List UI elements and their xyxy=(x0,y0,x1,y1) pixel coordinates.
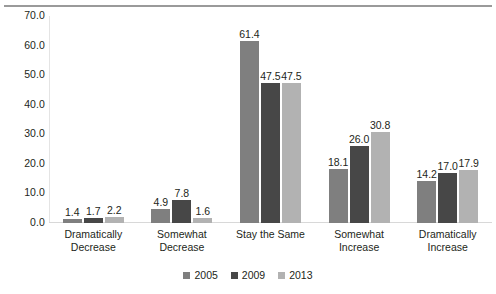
y-axis-tick: 40.0 xyxy=(3,99,45,110)
bar-value-label: 18.1 xyxy=(328,157,348,168)
y-axis-tick-labels: 0.010.020.030.040.050.060.070.0 xyxy=(0,0,45,294)
x-axis-category-label-line: Dramatically xyxy=(403,228,492,241)
bar-item[interactable]: 1.4 xyxy=(63,219,82,223)
bar-rect[interactable] xyxy=(459,170,478,223)
bar-value-label: 1.4 xyxy=(65,207,80,218)
x-axis-category-label: Stay the Same xyxy=(226,228,315,241)
bar-item[interactable]: 7.8 xyxy=(172,200,191,223)
bar-item[interactable]: 1.7 xyxy=(84,218,103,223)
bar-value-label: 14.2 xyxy=(416,169,436,180)
bar-value-label: 17.9 xyxy=(458,158,478,169)
bar-group: 18.126.030.8 xyxy=(315,16,404,223)
x-axis-category-label-line: Somewhat xyxy=(138,228,227,241)
bar-rect[interactable] xyxy=(438,173,457,223)
legend-swatch-icon xyxy=(278,272,285,279)
x-axis-category-label: SomewhatIncrease xyxy=(315,228,404,253)
bar-group-bars: 1.41.72.2 xyxy=(49,16,138,223)
legend-item[interactable]: 2009 xyxy=(231,270,265,281)
bar-value-label: 17.0 xyxy=(437,161,457,172)
bar-value-label: 47.5 xyxy=(260,71,280,82)
bar-group-bars: 4.97.81.6 xyxy=(138,16,227,223)
x-axis-category-label-line: Stay the Same xyxy=(226,228,315,241)
top-divider-rule xyxy=(4,5,492,7)
bar-item[interactable]: 26.0 xyxy=(350,146,369,223)
legend-label: 2009 xyxy=(242,270,265,281)
x-axis-category-label-line: Increase xyxy=(403,241,492,254)
bar-value-label: 1.6 xyxy=(196,206,211,217)
bar-item[interactable]: 61.4 xyxy=(240,41,259,223)
bar-value-label: 61.4 xyxy=(239,29,259,40)
bar-group: 4.97.81.6 xyxy=(138,16,227,223)
legend-label: 2013 xyxy=(289,270,312,281)
bar-rect[interactable] xyxy=(282,83,301,223)
legend-swatch-icon xyxy=(183,272,190,279)
bar-item[interactable]: 1.6 xyxy=(193,218,212,223)
bar-rect[interactable] xyxy=(350,146,369,223)
y-axis-tick: 30.0 xyxy=(3,128,45,139)
bar-item[interactable]: 2.2 xyxy=(105,217,124,224)
bar-rect[interactable] xyxy=(151,209,170,223)
bar-rect[interactable] xyxy=(84,218,103,223)
bar-rect[interactable] xyxy=(63,219,82,223)
x-axis-category-label: DramaticallyIncrease xyxy=(403,228,492,253)
bar-value-label: 4.9 xyxy=(154,197,169,208)
bar-rect[interactable] xyxy=(240,41,259,223)
bar-group: 61.447.547.5 xyxy=(226,16,315,223)
legend-swatch-icon xyxy=(231,272,238,279)
y-axis-tick: 10.0 xyxy=(3,187,45,198)
x-axis-category-label: SomewhatDecrease xyxy=(138,228,227,253)
y-axis-tick: 60.0 xyxy=(3,40,45,51)
bar-item[interactable]: 30.8 xyxy=(371,132,390,223)
chart-figure: 0.010.020.030.040.050.060.070.0 1.41.72.… xyxy=(0,0,496,294)
x-axis-category-label-line: Decrease xyxy=(138,241,227,254)
legend-label: 2005 xyxy=(194,270,217,281)
bar-group: 14.217.017.9 xyxy=(403,16,492,223)
bar-group-bars: 14.217.017.9 xyxy=(403,16,492,223)
bar-rect[interactable] xyxy=(193,218,212,223)
legend-item[interactable]: 2005 xyxy=(183,270,217,281)
bar-item[interactable]: 18.1 xyxy=(329,169,348,223)
bar-item[interactable]: 17.0 xyxy=(438,173,457,223)
x-axis-category-label-line: Dramatically xyxy=(49,228,138,241)
y-axis-tick: 0.0 xyxy=(3,217,45,228)
bar-rect[interactable] xyxy=(329,169,348,223)
bar-rect[interactable] xyxy=(371,132,390,223)
bar-item[interactable]: 17.9 xyxy=(459,170,478,223)
bar-item[interactable]: 4.9 xyxy=(151,209,170,223)
legend-item[interactable]: 2013 xyxy=(278,270,312,281)
bar-rect[interactable] xyxy=(417,181,436,223)
bar-item[interactable]: 47.5 xyxy=(261,83,280,223)
bar-group-bars: 18.126.030.8 xyxy=(315,16,404,223)
bar-item[interactable]: 47.5 xyxy=(282,83,301,223)
bar-item[interactable]: 14.2 xyxy=(417,181,436,223)
bar-rect[interactable] xyxy=(105,217,124,224)
bar-value-label: 47.5 xyxy=(281,71,301,82)
x-axis-category-label: DramaticallyDecrease xyxy=(49,228,138,253)
x-axis-category-label-line: Somewhat xyxy=(315,228,404,241)
bar-value-label: 26.0 xyxy=(349,134,369,145)
y-axis-tick: 50.0 xyxy=(3,69,45,80)
bar-value-label: 2.2 xyxy=(107,205,122,216)
bar-rect[interactable] xyxy=(172,200,191,223)
bar-value-label: 1.7 xyxy=(86,206,101,217)
bar-group: 1.41.72.2 xyxy=(49,16,138,223)
y-axis-tick: 70.0 xyxy=(3,10,45,21)
x-axis-category-label-line: Decrease xyxy=(49,241,138,254)
x-axis-category-label-line: Increase xyxy=(315,241,404,254)
bar-group-bars: 61.447.547.5 xyxy=(226,16,315,223)
y-axis-tick: 20.0 xyxy=(3,158,45,169)
bar-value-label: 7.8 xyxy=(175,188,190,199)
bar-rect[interactable] xyxy=(261,83,280,223)
plot-area: 1.41.72.24.97.81.661.447.547.518.126.030… xyxy=(49,16,492,223)
bar-value-label: 30.8 xyxy=(370,120,390,131)
chart-legend: 200520092013 xyxy=(0,270,496,281)
